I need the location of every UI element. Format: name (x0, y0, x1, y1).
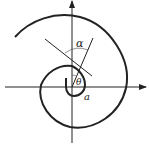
a-label: a (84, 91, 90, 102)
theta-label: θ (76, 77, 82, 87)
diagram-canvas: α θ a (0, 0, 149, 153)
spiral-diagram: α θ a (0, 0, 149, 153)
spiral-curve (15, 15, 127, 127)
alpha-label: α (76, 37, 84, 50)
